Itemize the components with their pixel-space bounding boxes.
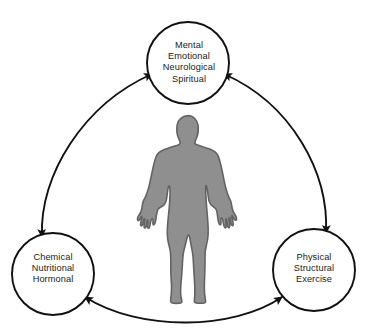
node-circle-mental[interactable] xyxy=(147,22,229,104)
node-circle-physical[interactable] xyxy=(273,229,355,311)
right-connector xyxy=(224,74,326,233)
triad-of-health-diagram: top --> bottom-right --> bottom-right --… xyxy=(0,0,375,336)
left-connector xyxy=(42,74,152,237)
diagram-canvas: top --> bottom-right --> bottom-right --… xyxy=(0,0,375,336)
bottom-connector xyxy=(85,297,282,323)
human-body-silhouette xyxy=(137,116,236,304)
node-circle-chemical[interactable] xyxy=(12,233,94,315)
